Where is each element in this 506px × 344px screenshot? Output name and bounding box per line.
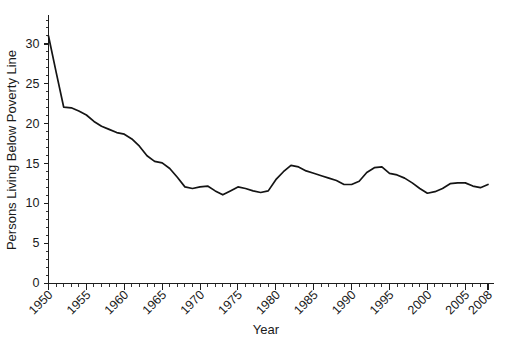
poverty-rate-series bbox=[49, 36, 489, 195]
x-axis-title: Year bbox=[253, 322, 280, 337]
y-tick-label: 30 bbox=[26, 37, 40, 51]
x-tick-label: 2008 bbox=[466, 288, 496, 318]
y-tick-label: 0 bbox=[33, 276, 40, 290]
x-axis-tick-labels: 1950195519601965197019751980198519901995… bbox=[26, 288, 495, 318]
y-tick-label: 10 bbox=[26, 196, 40, 210]
x-tick-label: 1980 bbox=[253, 288, 283, 318]
x-tick-label: 1975 bbox=[215, 288, 245, 318]
x-tick-label: 1955 bbox=[64, 288, 94, 318]
y-tick-label: 15 bbox=[26, 157, 40, 171]
x-tick-label: 1985 bbox=[291, 288, 321, 318]
chart-figure: 051015202530 195019551960196519701975198… bbox=[0, 0, 506, 344]
y-tick-label: 5 bbox=[33, 236, 40, 250]
poverty-line-chart: 051015202530 195019551960196519701975198… bbox=[0, 0, 506, 344]
x-tick-label: 1950 bbox=[26, 288, 56, 318]
x-tick-label: 1995 bbox=[367, 288, 397, 318]
y-axis-title: Persons Living Below Poverty Line bbox=[4, 50, 19, 250]
x-tick-label: 1960 bbox=[102, 288, 132, 318]
x-tick-label: 1965 bbox=[140, 288, 170, 318]
y-tick-label: 20 bbox=[26, 117, 40, 131]
y-axis-ticks bbox=[44, 44, 49, 284]
plot-frame bbox=[49, 15, 495, 284]
x-tick-label: 2000 bbox=[405, 288, 435, 318]
x-tick-label: 1970 bbox=[178, 288, 208, 318]
x-tick-label: 1990 bbox=[329, 288, 359, 318]
x-tick-label: 2005 bbox=[443, 288, 473, 318]
y-tick-label: 25 bbox=[26, 77, 40, 91]
y-axis-tick-labels: 051015202530 bbox=[26, 37, 40, 291]
